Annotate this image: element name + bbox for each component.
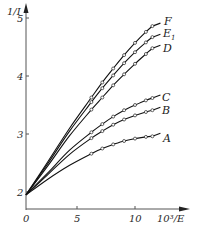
x-axis-arrow-icon <box>179 207 190 212</box>
data-point-marker <box>123 54 126 57</box>
data-point-marker <box>101 130 104 133</box>
data-point-marker <box>134 137 137 140</box>
data-point-marker <box>123 118 126 121</box>
data-point-marker <box>144 41 147 44</box>
data-point-marker <box>144 30 147 33</box>
data-point-marker <box>101 123 104 126</box>
data-point-marker <box>112 115 115 118</box>
data-point-marker <box>112 67 115 70</box>
x-tick-10: 10 <box>129 213 142 224</box>
data-point-marker <box>123 73 126 76</box>
data-point-marker <box>123 62 126 65</box>
curve-label-C: C <box>162 91 171 104</box>
chart: 5 4 3 2 1/I 0 5 10 10³/E F E1 D C B A <box>0 0 198 237</box>
data-point-marker <box>123 140 126 143</box>
x-axis-label: 10³/E <box>157 213 185 224</box>
x-tick-5: 5 <box>74 213 80 224</box>
data-point-marker <box>144 99 147 102</box>
y-tick-4: 4 <box>16 71 23 82</box>
x-tick-0: 0 <box>23 213 30 224</box>
data-point-marker <box>112 74 115 77</box>
data-point-marker <box>90 108 93 111</box>
data-point-marker <box>90 131 93 134</box>
data-point-marker <box>112 84 115 87</box>
data-point-marker <box>134 104 137 107</box>
y-axis-label: 1/I <box>7 6 22 17</box>
curve-D <box>26 48 152 195</box>
data-point-marker <box>134 114 137 117</box>
y-tick-3: 3 <box>17 129 23 140</box>
data-point-marker <box>151 25 154 28</box>
data-point-marker <box>101 81 104 84</box>
data-point-marker <box>101 147 104 150</box>
curve-label-D: D <box>162 42 172 55</box>
y-ticks: 5 4 3 2 <box>16 13 29 198</box>
data-point-marker <box>151 36 154 39</box>
data-point-marker <box>144 135 147 138</box>
data-point-marker <box>90 96 93 99</box>
data-point-marker <box>134 62 137 65</box>
data-point-marker <box>134 41 137 44</box>
data-point-marker <box>90 101 93 104</box>
data-point-marker <box>151 97 154 100</box>
data-point-marker <box>144 53 147 56</box>
data-point-marker <box>144 111 147 114</box>
curves <box>26 23 160 195</box>
data-point-marker <box>112 143 115 146</box>
data-point-marker <box>151 109 154 112</box>
y-tick-2: 2 <box>16 187 23 198</box>
curve-B <box>26 110 152 195</box>
data-point-marker <box>101 96 104 99</box>
data-point-marker <box>112 123 115 126</box>
curve-label-A: A <box>162 132 171 145</box>
data-point-marker <box>151 135 154 138</box>
data-point-marker <box>90 152 93 155</box>
data-point-marker <box>123 109 126 112</box>
y-axis-arrow-icon <box>24 3 29 13</box>
data-point-marker <box>134 51 137 54</box>
curve-label-B: B <box>161 104 170 117</box>
curve-label-E1: E1 <box>162 27 176 42</box>
data-point-marker <box>151 47 154 50</box>
data-point-marker <box>90 137 93 140</box>
data-point-marker <box>101 87 104 90</box>
